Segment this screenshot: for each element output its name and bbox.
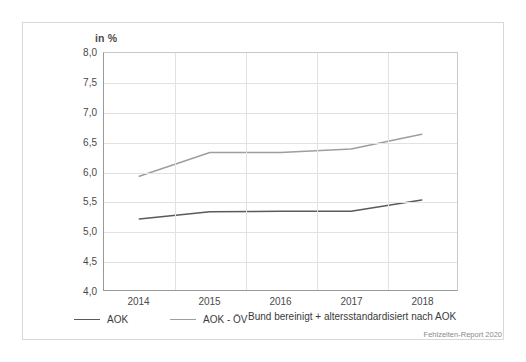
axis-unit-label: in % — [95, 32, 117, 44]
gridline-horizontal — [104, 143, 457, 144]
x-axis-tick-label: 2018 — [388, 296, 458, 307]
gridline-horizontal — [104, 83, 457, 84]
plot-area — [103, 52, 458, 291]
y-axis-tick-label: 5,0 — [57, 226, 97, 237]
x-axis-tick-label: 2014 — [104, 296, 174, 307]
gridline-vertical — [388, 53, 389, 290]
y-axis-tick-labels: 8,07,57,06,56,05,55,04,54,0 — [55, 52, 97, 291]
legend-line-swatch-aok — [74, 319, 100, 320]
y-axis-tick-label: 7,0 — [57, 106, 97, 117]
legend-item-aok[interactable]: AOK — [74, 311, 128, 327]
y-axis-tick-label: 4,5 — [57, 256, 97, 267]
y-axis-tick-label: 6,5 — [57, 136, 97, 147]
chart-figure: in % 8,07,57,06,56,05,55,04,54,0 2014201… — [0, 0, 526, 362]
y-axis-tick-label: 7,5 — [57, 76, 97, 87]
gridline-horizontal — [104, 232, 457, 233]
gridline-horizontal — [104, 202, 457, 203]
gridline-vertical — [317, 53, 318, 290]
y-axis-tick-label: 8,0 — [57, 47, 97, 58]
source-caption: Fehlzeiten-Report 2020 — [424, 330, 502, 339]
y-axis-tick-label: 4,0 — [57, 286, 97, 297]
gridline-horizontal — [104, 262, 457, 263]
y-axis-tick-label: 5,5 — [57, 196, 97, 207]
x-axis-tick-labels: 20142015201620172018 — [103, 296, 458, 312]
legend-item-aok-oev[interactable]: AOK - ÖV — [170, 311, 247, 327]
gridline-vertical — [246, 53, 247, 290]
chart-footnote: Bund bereinigt + altersstandardisiert na… — [248, 311, 456, 322]
legend-label-aok: AOK — [107, 314, 128, 325]
gridline-vertical — [175, 53, 176, 290]
x-axis-tick-label: 2017 — [317, 296, 387, 307]
gridline-horizontal — [104, 173, 457, 174]
y-axis-tick-label: 6,0 — [57, 166, 97, 177]
legend-line-swatch-aok-oev — [170, 319, 196, 320]
series-line-aok-v — [139, 134, 421, 176]
series-lines — [104, 53, 457, 290]
x-axis-tick-label: 2015 — [175, 296, 245, 307]
legend-label-aok-oev: AOK - ÖV — [203, 314, 247, 325]
x-axis-tick-label: 2016 — [246, 296, 316, 307]
gridline-horizontal — [104, 113, 457, 114]
